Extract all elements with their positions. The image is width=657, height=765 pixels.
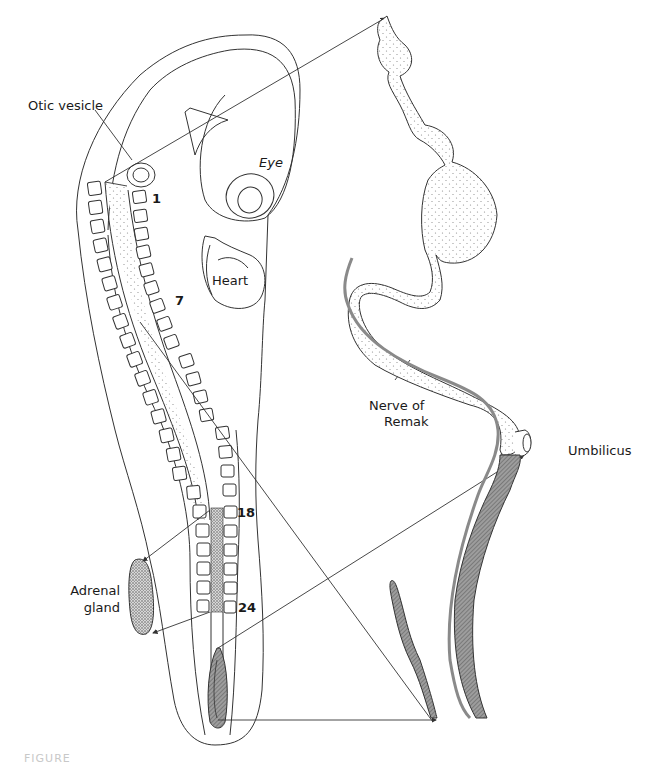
somite-number-1: 1 xyxy=(152,192,161,206)
neural-crest-band xyxy=(105,182,205,520)
label-heart: Heart xyxy=(212,273,248,289)
embryo-body-outline xyxy=(77,35,300,745)
allantois-hatched xyxy=(390,581,437,718)
figure-caption-partial: FIGURE xyxy=(24,752,71,765)
somite-number-18: 18 xyxy=(237,506,255,520)
label-eye: Eye xyxy=(259,155,283,171)
nerve-of-remak xyxy=(345,258,498,718)
somite-number-7: 7 xyxy=(175,294,184,308)
adrenal-precursor-column xyxy=(211,508,223,612)
embryo-neural-crest-diagram xyxy=(0,0,657,765)
somite-number-24: 24 xyxy=(238,601,256,615)
label-nerve-of-remak-1: Nerve of xyxy=(369,398,424,414)
label-nerve-of-remak-2: Remak xyxy=(384,414,429,430)
adrenal-gland xyxy=(129,559,154,634)
eye-structure xyxy=(221,169,279,224)
label-otic-vesicle: Otic vesicle xyxy=(28,98,103,114)
foregut-stippled xyxy=(348,16,520,455)
label-adrenal-gland-1: Adrenal xyxy=(56,583,120,599)
label-adrenal-gland-2: gland xyxy=(56,600,120,616)
label-umbilicus: Umbilicus xyxy=(568,443,631,459)
hindgut-dark xyxy=(454,455,520,718)
